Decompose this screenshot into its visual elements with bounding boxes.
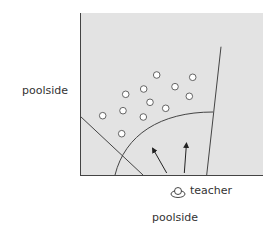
swimmer-dot — [147, 99, 154, 106]
swimmer-dot — [153, 72, 160, 79]
pool-area — [80, 13, 263, 175]
swimmer-dot — [172, 83, 179, 90]
swimmer-dot — [186, 93, 193, 100]
swimmer-dot — [122, 91, 129, 98]
poolside-bottom-label: poolside — [152, 212, 198, 223]
swimmer-dot — [140, 114, 147, 121]
swimmer-dot — [99, 112, 106, 119]
swimmer-dot — [189, 74, 196, 81]
teacher-label: teacher — [190, 185, 232, 196]
swimmer-dot — [162, 105, 169, 112]
teacher-icon — [171, 188, 185, 198]
swimmer-dot — [118, 130, 125, 137]
swimmer-dot — [140, 86, 147, 93]
swimmer-dot — [120, 107, 127, 114]
pool-diagram — [0, 0, 276, 243]
poolside-left-label: poolside — [22, 85, 68, 96]
